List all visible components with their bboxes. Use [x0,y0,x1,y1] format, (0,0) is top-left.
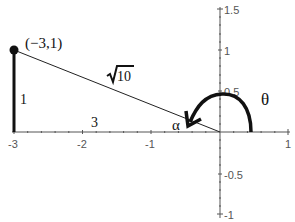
opposite-label: 1 [20,92,27,107]
y-tick-label: 1 [224,45,230,57]
adjacent-label: 3 [91,115,98,130]
reference-angle-label: α [172,117,180,133]
hypotenuse-value: 10 [117,69,131,84]
theta-label: θ [261,90,269,109]
x-tick-label: -2 [77,138,87,150]
x-tick-label: -3 [8,138,18,150]
y-tick-label: 1.5 [224,4,239,16]
x-tick-label: -1 [145,138,155,150]
y-tick-label: -0.5 [224,169,243,181]
point-marker [10,46,19,55]
coordinate-diagram: -3 -2 -1 1 [0,0,295,222]
y-axis: 1.5 1 0.5 -0.5 -1 [217,4,243,221]
x-axis: -3 -2 -1 1 [8,129,291,150]
hypotenuse-line [14,50,220,132]
hypotenuse-label: 10 [107,66,134,84]
point-label: (−3,1) [25,35,62,52]
x-tick-label: 1 [285,138,291,150]
angle-arc-arrow-icon [186,94,251,132]
y-tick-label: -1 [224,209,234,221]
